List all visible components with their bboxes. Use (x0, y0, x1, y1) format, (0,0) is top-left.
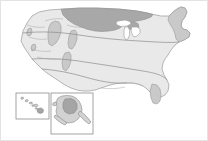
hawaii-inset (16, 93, 49, 119)
alaska-interior-highlight (63, 99, 77, 115)
main-map-group (21, 7, 190, 104)
island-molokai (29, 102, 32, 104)
us-map-svg (1, 1, 207, 140)
island-oahu (25, 100, 28, 102)
island-kahoolawe (35, 108, 37, 110)
island-maui (34, 104, 38, 107)
us-map-figure (0, 0, 208, 141)
island-hawaii-big (37, 108, 44, 114)
island-kauai (21, 97, 24, 99)
alaska-inset (51, 93, 93, 134)
lake-michigan (124, 27, 130, 40)
